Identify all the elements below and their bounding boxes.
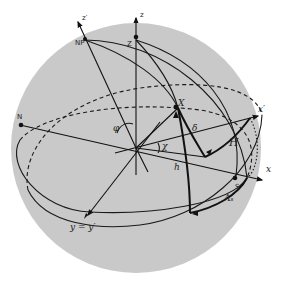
- south-point: [233, 176, 238, 181]
- z-prime-axis-label: z′: [82, 14, 88, 22]
- south-point-label: S: [235, 183, 240, 191]
- declination-label: δ: [192, 123, 197, 133]
- zenith-point: [134, 35, 139, 40]
- hour-angle-label: H: [228, 136, 239, 149]
- chi-label: χ: [161, 141, 168, 151]
- z-axis-label: z: [140, 11, 144, 19]
- azimuth-label: Aₛ: [223, 193, 234, 203]
- zenith-label: Z: [127, 40, 132, 48]
- north-pole-label: NP: [75, 39, 84, 47]
- north-point-label: N: [17, 113, 22, 121]
- latitude-label: φ: [113, 123, 120, 133]
- x-prime-axis-label: x′: [258, 104, 265, 114]
- star-label: X: [177, 98, 185, 108]
- altitude-label: h: [174, 162, 180, 172]
- celestial-sphere-diagram: z z′ Z NP N S X x x′ y = y′ φ χ δ H h Aₛ: [0, 0, 281, 283]
- x-axis-label: x: [266, 164, 271, 174]
- y-axis-label: y = y′: [69, 222, 95, 232]
- north-point: [19, 123, 24, 128]
